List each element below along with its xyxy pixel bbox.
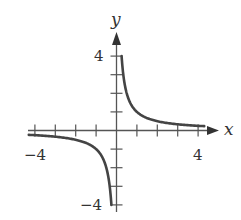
x-axis-label: x	[224, 119, 234, 139]
y-axis-label: y	[110, 9, 121, 29]
plot-area: x y −4 4 4 −4	[0, 0, 241, 220]
y-axis-arrow-icon	[112, 32, 121, 45]
y-tick-label-4: 4	[94, 47, 104, 65]
axes	[28, 32, 219, 212]
chart: x y −4 4 4 −4	[0, 0, 241, 220]
x-tick-label-neg4: −4	[24, 146, 46, 164]
x-tick-label-4: 4	[193, 146, 203, 164]
y-tick-label-neg4: −4	[80, 196, 102, 214]
curve-right-branch	[122, 56, 205, 126]
x-axis-arrow-icon	[207, 126, 219, 135]
